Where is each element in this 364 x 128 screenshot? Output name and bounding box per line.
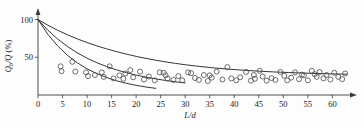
data-point xyxy=(309,68,314,73)
upper-decay-curve xyxy=(38,20,347,75)
data-point xyxy=(131,75,136,80)
x-tick-label: 50 xyxy=(279,99,288,109)
data-point xyxy=(328,77,333,82)
data-point xyxy=(238,75,243,80)
chart-canvas: 051015202530354045505560 50100 L/d Qb/Q … xyxy=(0,0,364,128)
lower-decay-curve xyxy=(38,20,156,89)
x-tick-label: 45 xyxy=(255,99,264,109)
data-point xyxy=(305,78,310,83)
y-axis-title-unit: (%) xyxy=(3,40,13,55)
figure-container: 051015202530354045505560 50100 L/d Qb/Q … xyxy=(0,0,364,128)
scatter-points-group xyxy=(58,59,348,83)
data-point xyxy=(220,77,225,82)
x-axis-title-group: L/d xyxy=(183,110,196,120)
x-tick-label: 0 xyxy=(36,99,40,109)
y-axis-title: Qb/Q (%) xyxy=(3,40,14,73)
data-point xyxy=(201,73,206,78)
data-point xyxy=(176,74,181,79)
data-point xyxy=(59,69,64,74)
data-point xyxy=(297,77,302,82)
data-point xyxy=(99,70,104,75)
data-point xyxy=(332,70,337,75)
data-point xyxy=(321,76,326,81)
data-point xyxy=(123,71,128,76)
data-point xyxy=(264,78,269,83)
axes-group xyxy=(36,8,357,97)
y-tick-label: 100 xyxy=(20,15,33,25)
y-axis-ticks: 50100 xyxy=(20,15,38,63)
x-axis-title: L/d xyxy=(183,110,196,120)
data-point xyxy=(92,73,97,78)
data-point xyxy=(343,71,348,76)
y-axis-title-group: Qb/Q (%) xyxy=(3,40,14,73)
x-tick-label: 15 xyxy=(107,99,116,109)
data-point xyxy=(128,68,133,73)
x-axis-ticks: 051015202530354045505560 xyxy=(36,95,337,109)
data-point xyxy=(282,73,287,78)
x-tick-label: 20 xyxy=(132,99,141,109)
data-point xyxy=(260,74,265,79)
data-point xyxy=(121,76,126,81)
data-point xyxy=(107,64,112,69)
x-tick-label: 5 xyxy=(60,99,64,109)
x-tick-label: 35 xyxy=(205,99,214,109)
data-point xyxy=(229,76,234,81)
y-tick-label: 50 xyxy=(25,52,34,62)
data-point xyxy=(180,78,185,83)
data-point xyxy=(214,69,219,74)
x-tick-label: 25 xyxy=(156,99,165,109)
data-point xyxy=(189,71,194,76)
data-point xyxy=(70,59,75,64)
data-point xyxy=(289,75,294,80)
x-tick-label: 30 xyxy=(181,99,190,109)
data-point xyxy=(73,69,78,74)
data-point xyxy=(138,69,143,74)
y-axis-title-rest: /Q xyxy=(3,55,13,65)
x-tick-label: 40 xyxy=(230,99,239,109)
x-tick-label: 10 xyxy=(83,99,92,109)
x-tick-label: 55 xyxy=(304,99,313,109)
y-axis-arrowhead xyxy=(36,8,41,15)
data-point xyxy=(146,74,151,79)
data-point xyxy=(141,77,146,82)
x-tick-label: 60 xyxy=(328,99,337,109)
data-point xyxy=(340,77,345,82)
data-point xyxy=(58,64,63,69)
x-axis-arrowhead xyxy=(350,93,357,98)
